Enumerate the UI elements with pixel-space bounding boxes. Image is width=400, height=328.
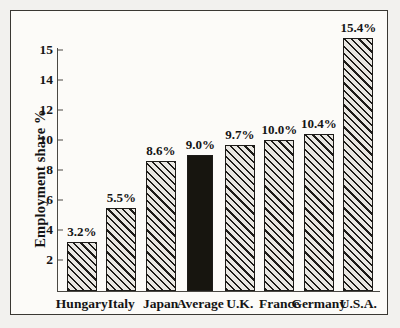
bar-hungary[interactable] (67, 242, 97, 291)
x-axis-category-label: U.K. (226, 296, 253, 312)
y-axis-tick-label: 14 (27, 72, 53, 88)
x-axis-baseline (57, 291, 380, 292)
y-axis-tick-mark (57, 200, 63, 201)
bar-value-label: 10.0% (261, 122, 297, 138)
y-axis-tick-mark (57, 230, 63, 231)
y-axis-tick-label: 8 (27, 162, 53, 178)
y-axis-tick-label: 15 (27, 42, 53, 58)
y-axis-tick-label: 10 (27, 132, 53, 148)
y-axis-tick-mark (57, 140, 63, 141)
bar-value-label: 9.7% (225, 127, 254, 143)
y-axis-tick-mark (57, 170, 63, 171)
x-axis-category-label: Average (177, 296, 224, 312)
bar-value-label: 3.2% (67, 224, 96, 240)
y-axis-title-wrapper: Employment share % (22, 20, 42, 280)
bar-average[interactable] (187, 155, 213, 291)
bar-chart: Employment share % 151412108642 3.2%Hung… (0, 0, 400, 328)
bar-germany[interactable] (304, 134, 334, 291)
bar-u-s-a[interactable] (343, 38, 373, 291)
bar-japan[interactable] (146, 161, 176, 291)
x-axis-category-label: U.S.A. (340, 296, 377, 312)
bar-france[interactable] (264, 140, 294, 291)
bar-italy[interactable] (106, 208, 136, 292)
y-axis-tick-label: 2 (27, 252, 53, 268)
y-axis-tick-label: 12 (27, 102, 53, 118)
y-axis-tick-label: 4 (27, 222, 53, 238)
x-axis-category-label: Italy (108, 296, 135, 312)
bar-value-label: 10.4% (301, 116, 337, 132)
y-axis-tick-mark (57, 260, 63, 261)
bar-value-label: 8.6% (146, 143, 175, 159)
y-axis-tick-mark (57, 50, 63, 51)
bar-u-k[interactable] (225, 145, 255, 292)
y-axis-tick-mark (57, 80, 63, 81)
x-axis-category-label: Japan (143, 296, 178, 312)
bar-value-label: 15.4% (340, 20, 376, 36)
x-axis-category-label: Hungary (56, 296, 108, 312)
y-axis-tick-label: 6 (27, 192, 53, 208)
y-axis-tick-mark (57, 110, 63, 111)
x-axis-category-label: Germany (291, 296, 346, 312)
bar-value-label: 5.5% (107, 190, 136, 206)
bar-value-label: 9.0% (186, 137, 215, 153)
